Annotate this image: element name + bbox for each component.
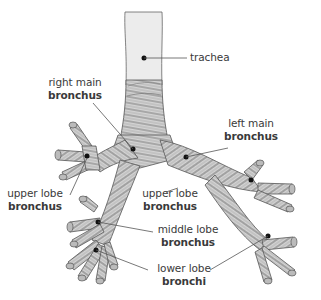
- label-line-regular: lower lobe: [152, 262, 216, 275]
- label-line-bold: bronchus: [137, 200, 203, 213]
- label-line-bold: bronchus: [155, 236, 221, 249]
- right-upper-branch-b: [58, 150, 86, 162]
- label-line-regular: upper lobe: [137, 187, 203, 200]
- label-line-bold: bronchi: [152, 275, 216, 288]
- label-trachea-text: trachea: [190, 51, 230, 64]
- label-line-bold: bronchus: [216, 130, 286, 143]
- label-line-regular: middle lobe: [155, 223, 221, 236]
- label-lower-lobe-bronchi: lower lobe bronchi: [152, 262, 216, 288]
- label-line-bold: bronchus: [38, 89, 112, 102]
- label-trachea: trachea: [190, 51, 230, 64]
- label-middle-lobe-bronchus: middle lobe bronchus: [155, 223, 221, 249]
- label-right-upper-lobe-bronchus: upper lobe bronchus: [3, 187, 67, 213]
- label-line-bold: bronchus: [3, 200, 67, 213]
- airway-illustration: [0, 0, 321, 300]
- label-line-regular: right main: [38, 76, 112, 89]
- label-line-regular: upper lobe: [3, 187, 67, 200]
- label-left-main-bronchus: left main bronchus: [216, 117, 286, 143]
- label-line-regular: left main: [216, 117, 286, 130]
- label-left-upper-lobe-bronchus: upper lobe bronchus: [137, 187, 203, 213]
- bronchial-tree-diagram: trachea right main bronchus left main br…: [0, 0, 321, 300]
- label-right-main-bronchus: right main bronchus: [38, 76, 112, 102]
- trachea: [120, 12, 168, 140]
